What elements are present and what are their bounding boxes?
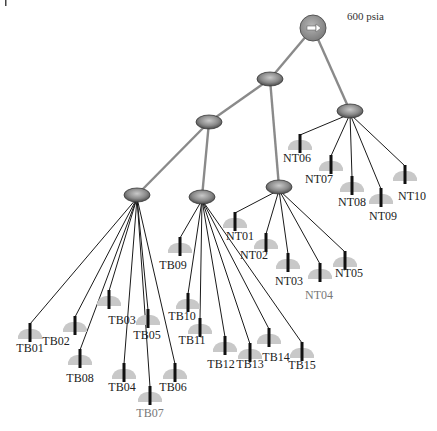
branch-pipe-nt09 <box>350 114 381 189</box>
sensor-nt08[interactable]: NT08 <box>338 176 366 209</box>
sensor-label: NT06 <box>283 151 311 165</box>
source-pressure-label: 600 psia <box>347 10 384 22</box>
branch-pipe-nt02 <box>266 190 279 234</box>
junction-node-j6[interactable] <box>337 104 363 118</box>
sensor-stem-icon <box>79 349 82 368</box>
sensor-label: NT05 <box>335 266 363 280</box>
sensor-label: NT10 <box>398 189 426 203</box>
trunk-pipe-j5 <box>270 79 279 187</box>
branch-pipe-nt08 <box>350 114 352 177</box>
sensor-stem-icon <box>108 290 111 309</box>
branch-pipe-nt04 <box>279 190 320 264</box>
sensor-tb03[interactable]: TB03 <box>97 290 136 327</box>
sensor-label: NT01 <box>226 229 254 243</box>
sensor-label: TB12 <box>207 357 234 371</box>
sensor-label: NT04 <box>305 288 333 302</box>
sensor-tb08[interactable]: TB08 <box>66 349 93 385</box>
trunk-pipe-j3 <box>137 122 209 195</box>
sensor-label: NT07 <box>305 172 333 186</box>
sensor-stem-icon <box>268 328 271 347</box>
branch-pipe-tb12 <box>202 200 225 337</box>
junction-node-j2[interactable] <box>196 115 222 129</box>
sensor-stem-icon <box>179 237 182 256</box>
sensor-tb10[interactable]: TB10 <box>168 293 200 323</box>
sensor-stem-icon <box>380 188 383 207</box>
sensor-stem-icon <box>319 263 322 282</box>
sensor-label: TB08 <box>66 371 93 385</box>
sensor-stem-icon <box>149 386 152 405</box>
branch-pipe-tb11 <box>200 200 202 319</box>
sensor-label: TB01 <box>16 341 43 355</box>
sensor-label: TB10 <box>168 309 195 323</box>
junction-node-j5[interactable] <box>266 180 292 194</box>
sensor-network-diagram: TB01TB02TB03TB08TB05TB04TB07TB06TB09TB10… <box>0 0 437 431</box>
sensor-tb05[interactable]: TB05 <box>133 309 160 342</box>
sensor-stem-icon <box>147 309 150 328</box>
sensor-nt04[interactable]: NT04 <box>305 263 333 302</box>
sensor-tb14[interactable]: TB14 <box>257 328 290 364</box>
trunk-pipe-j2 <box>209 79 270 122</box>
trunk-pipe-j4 <box>202 122 209 197</box>
sensor-nt06[interactable]: NT06 <box>283 134 312 165</box>
sensor-label: NT08 <box>338 195 366 209</box>
sensor-nt01[interactable]: NT01 <box>223 212 254 243</box>
corner-mark <box>5 0 7 6</box>
sensor-label: TB06 <box>159 380 186 394</box>
sensor-label: NT02 <box>240 248 268 262</box>
sensor-tb04[interactable]: TB04 <box>108 363 136 394</box>
sensor-stem-icon <box>351 176 354 195</box>
trunk-pipe-j6 <box>313 28 350 111</box>
branch-pipe-nt03 <box>279 190 288 254</box>
sensor-nt05[interactable]: NT05 <box>333 251 363 280</box>
pressure-source[interactable] <box>300 15 326 41</box>
sensors: TB01TB02TB03TB08TB05TB04TB07TB06TB09TB10… <box>16 134 426 420</box>
sensor-tb12[interactable]: TB12 <box>207 336 237 371</box>
junction-node-j3[interactable] <box>124 188 150 202</box>
sensor-tb02[interactable]: TB02 <box>42 316 87 348</box>
sensor-stem-icon <box>224 336 227 355</box>
sensor-tb15[interactable]: TB15 <box>288 342 315 372</box>
sensor-tb13[interactable]: TB13 <box>236 343 263 371</box>
sensor-label: NT03 <box>275 274 303 288</box>
branch-pipe-nt05 <box>279 190 345 252</box>
sensor-label: TB14 <box>262 350 289 364</box>
sensor-label: TB05 <box>133 328 160 342</box>
sensor-stem-icon <box>29 323 32 342</box>
sensor-nt09[interactable]: NT09 <box>369 188 397 223</box>
sensor-tb06[interactable]: TB06 <box>159 363 187 394</box>
sensor-label: TB15 <box>288 358 315 372</box>
branch-pipe-tb08 <box>80 198 137 350</box>
sensor-label: TB11 <box>179 333 206 347</box>
sensor-label: NT09 <box>369 209 397 223</box>
sensor-label: TB09 <box>159 258 186 272</box>
branch-pipe-nt10 <box>350 114 405 166</box>
sensor-stem-icon <box>74 316 77 335</box>
sensor-tb01[interactable]: TB01 <box>16 323 43 355</box>
sensor-label: TB04 <box>108 380 135 394</box>
sensor-nt03[interactable]: NT03 <box>275 253 303 288</box>
sensor-label: TB13 <box>236 357 263 371</box>
sensor-tb09[interactable]: TB09 <box>159 237 192 272</box>
sensor-label: TB03 <box>108 313 135 327</box>
sensor-label: TB02 <box>42 334 69 348</box>
sensor-nt10[interactable]: NT10 <box>393 165 426 203</box>
sensor-stem-icon <box>287 253 290 272</box>
junction-node-j1[interactable] <box>257 72 283 86</box>
sensor-label: TB07 <box>136 406 163 420</box>
sensor-stem-icon <box>404 165 407 184</box>
junction-node-j4[interactable] <box>189 190 215 204</box>
